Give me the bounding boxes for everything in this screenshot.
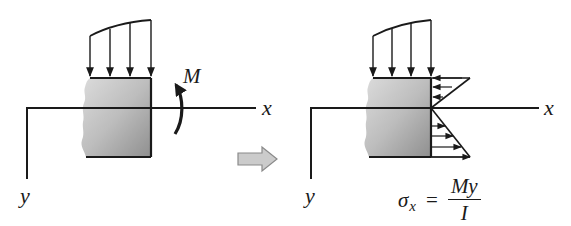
formula-denominator: I (461, 200, 468, 224)
right-y-axis-label: y (305, 185, 315, 207)
left-y-axis-label: y (20, 185, 30, 207)
left-distributed-load (90, 20, 151, 76)
left-panel (27, 20, 256, 179)
flexure-formula: σx = My I (398, 176, 481, 224)
diagram-canvas (0, 0, 571, 226)
stress-top-hypotenuse (431, 78, 470, 108)
formula-fraction: My I (448, 176, 481, 224)
right-beam-segment (364, 78, 431, 157)
right-x-axis-label: x (544, 97, 554, 119)
bending-stress-diagram: x y M x y σx = My I (0, 0, 571, 226)
stress-bottom-hypotenuse (431, 108, 470, 157)
right-distributed-load (373, 20, 431, 76)
stress-distribution (431, 78, 470, 157)
right-panel (311, 20, 539, 179)
formula-equals: = (426, 188, 438, 213)
load-curve (90, 20, 151, 36)
right-arrow-icon (238, 147, 277, 171)
moment-label: M (183, 66, 201, 87)
moment-arrow-icon (175, 85, 182, 134)
left-beam-segment (81, 78, 151, 157)
left-x-axis-label: x (262, 97, 272, 119)
formula-subscript: x (409, 198, 416, 215)
load-curve (373, 20, 431, 36)
formula-numerator: My (448, 176, 481, 200)
formula-sigma: σ (398, 188, 408, 213)
